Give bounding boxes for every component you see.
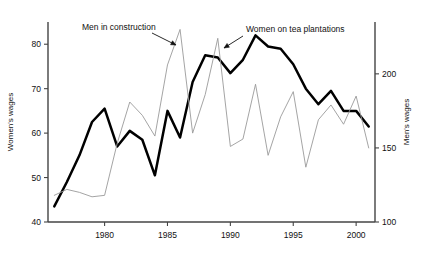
dual-axis-line-chart: 4050607080Women's wages 100150200Men's w… [0,0,422,263]
annotation-label: Men in construction [82,22,156,32]
chart-annotations: Men in constructionWomen on tea plantati… [82,22,345,48]
left-axis-tick-label: 80 [32,39,42,49]
annotation-arrow-head [224,43,229,48]
left-axis-tick-label: 50 [32,173,42,183]
left-axis-title: Women's wages [6,93,15,151]
bottom-axis: 19801985199019952000 [48,222,375,240]
right-axis-tick-label: 100 [382,217,396,227]
chart-container: 4050607080Women's wages 100150200Men's w… [0,0,422,263]
series-lines [54,29,368,206]
x-axis-tick-label: 2000 [347,230,366,240]
series-line-women-on-tea-plantations [54,35,368,206]
left-axis: 4050607080Women's wages [6,22,48,227]
left-axis-tick-label: 60 [32,128,42,138]
x-axis-tick-label: 1995 [284,230,303,240]
right-axis-tick-label: 200 [382,69,396,79]
right-axis-tick-label: 150 [382,143,396,153]
left-axis-tick-label: 70 [32,84,42,94]
x-axis-tick-label: 1980 [95,230,114,240]
x-axis-tick-label: 1985 [158,230,177,240]
x-axis-tick-label: 1990 [221,230,240,240]
right-axis-title: Men's wages [402,99,411,145]
annotation-label: Women on tea plantations [246,24,345,34]
left-axis-tick-label: 40 [32,217,42,227]
right-axis: 100150200Men's wages [375,22,411,227]
